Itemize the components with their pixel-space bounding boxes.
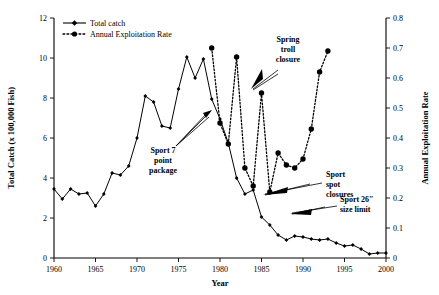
x-tick-label: 1965 — [88, 265, 104, 274]
data-point — [275, 150, 280, 155]
y2-tick-label: 0.3 — [393, 164, 403, 173]
y2-tick-label: 0.7 — [393, 44, 403, 53]
data-point — [168, 126, 172, 130]
y-tick-label: 2 — [43, 214, 47, 223]
annot-line: Spring — [276, 35, 299, 44]
annot-line: Sport — [326, 170, 345, 179]
x-axis-ticks: 196019651970197519801985199019952000 — [46, 258, 394, 274]
data-point — [376, 251, 380, 255]
x-tick-label: 1990 — [295, 265, 311, 274]
data-point — [317, 69, 322, 74]
x-axis-title: Year — [212, 278, 229, 288]
x-tick-label: 1980 — [212, 265, 228, 274]
annotations-layer: Sport 7 point package Spring troll closu… — [149, 35, 374, 215]
chart-legend: Total catch Annual Exploitation Rate — [63, 19, 172, 39]
data-point — [318, 238, 322, 242]
data-point — [309, 237, 313, 241]
data-point — [226, 141, 231, 146]
data-point — [235, 176, 239, 180]
y-tick-label: 6 — [43, 134, 47, 143]
y2-tick-label: 0.5 — [393, 104, 403, 113]
y-tick-label: 10 — [39, 54, 47, 63]
annot-line: closure — [276, 55, 301, 64]
series-line-1 — [54, 57, 386, 254]
annot-line: point — [154, 156, 172, 165]
annot-line: troll — [281, 45, 296, 54]
data-point — [292, 165, 297, 170]
y-tick-label: 8 — [43, 94, 47, 103]
chart-figure: 024681012 00.10.20.30.40.50.60.70.8 1960… — [0, 0, 439, 295]
data-point — [210, 97, 214, 101]
x-tick-label: 1985 — [254, 265, 270, 274]
data-point — [384, 251, 388, 255]
legend-label-exploitation-rate: Annual Exploitation Rate — [90, 30, 172, 39]
annot-line: package — [149, 166, 177, 175]
y2-tick-label: 0.2 — [393, 194, 403, 203]
data-point — [351, 243, 355, 247]
data-point — [325, 48, 330, 53]
y-axis-right-ticks: 00.10.20.30.40.50.60.70.8 — [386, 14, 403, 263]
y2-tick-label: 0.8 — [393, 14, 403, 23]
annot-line: spot — [326, 180, 341, 189]
legend-marker-exploitation-rate — [72, 31, 77, 36]
legend-marker-total-catch — [72, 20, 78, 26]
x-tick-label: 1970 — [129, 265, 145, 274]
data-point — [209, 45, 214, 50]
annotation-sport-7-point-package: Sport 7 point package — [149, 110, 212, 175]
data-point — [217, 120, 222, 125]
data-point — [334, 241, 338, 245]
y2-tick-label: 0.4 — [393, 134, 403, 143]
x-tick-label: 2000 — [378, 265, 394, 274]
x-tick-label: 1960 — [46, 265, 62, 274]
x-tick-label: 1995 — [337, 265, 353, 274]
y-tick-label: 12 — [39, 14, 47, 23]
series-layer — [52, 45, 388, 256]
x-tick-label: 1975 — [171, 265, 187, 274]
annotation-spring-troll-closure: Spring troll closure — [251, 35, 301, 90]
y2-tick-label: 0 — [393, 254, 397, 263]
annot-arrowhead — [263, 187, 288, 195]
data-point — [301, 235, 305, 239]
data-point — [284, 162, 289, 167]
data-point — [234, 54, 239, 59]
y-tick-label: 0 — [43, 254, 47, 263]
data-point — [326, 237, 330, 241]
data-point — [293, 234, 297, 238]
y-tick-label: 4 — [43, 174, 47, 183]
y2-tick-label: 0.6 — [393, 74, 403, 83]
data-point — [177, 87, 181, 91]
data-point — [160, 124, 164, 128]
chart-canvas: 024681012 00.10.20.30.40.50.60.70.8 1960… — [0, 0, 439, 295]
data-point — [300, 156, 305, 161]
data-point — [202, 57, 206, 61]
data-point — [259, 90, 264, 95]
y-axis-left-ticks: 024681012 — [39, 14, 54, 263]
annot-arrowhead — [290, 209, 312, 215]
data-point — [193, 76, 197, 80]
data-point — [135, 136, 139, 140]
data-point — [110, 171, 114, 175]
legend-label-total-catch: Total catch — [90, 19, 125, 28]
data-point — [243, 192, 247, 196]
annot-line: Sport 7 — [150, 146, 175, 155]
data-point — [251, 183, 256, 188]
annot-arrowhead — [203, 110, 212, 118]
data-point — [309, 126, 314, 131]
data-point — [343, 244, 347, 248]
annot-line: Sport 26" — [340, 195, 374, 204]
y-axis-left-title: Total Catch (x 100,000 Fish) — [6, 87, 16, 189]
y2-tick-label: 0.1 — [393, 224, 403, 233]
data-point — [242, 165, 247, 170]
series-line-2 — [212, 48, 328, 192]
axes-group — [54, 18, 386, 258]
annot-line: size limit — [340, 205, 371, 214]
data-point — [185, 55, 189, 59]
y-axis-right-title: Annual Exploitation Rate — [420, 91, 430, 184]
